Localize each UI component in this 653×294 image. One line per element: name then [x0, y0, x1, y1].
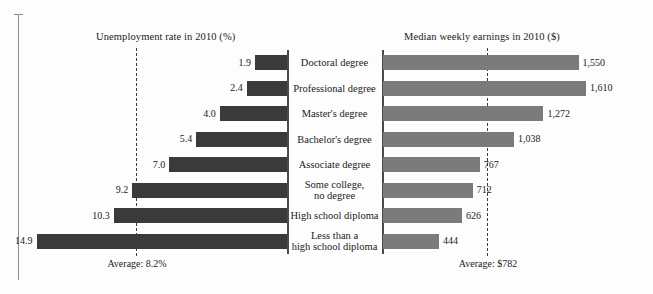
earnings-value-label: 1,272: [547, 109, 570, 119]
chart-row: 14.9Less than ahigh school diploma444: [0, 229, 653, 255]
unemployment-value-label: 2.4: [230, 83, 243, 93]
unemployment-bar: [37, 234, 288, 249]
left-bar-group: 7.0: [153, 152, 287, 178]
right-bar-group: 1,610: [383, 76, 613, 102]
category-label-text: Associate degree: [299, 159, 370, 171]
category-label-text: Professional degree: [293, 83, 376, 95]
unemployment-bar: [196, 132, 287, 147]
right-bar-group: 1,272: [383, 101, 570, 127]
right-bar-group: 626: [383, 203, 481, 229]
chart-row: 1.9Doctoral degree1,550: [0, 50, 653, 76]
chart-row: 5.4Bachelor's degree1,038: [0, 127, 653, 153]
category-label-text: High school diploma: [290, 210, 378, 222]
earnings-bar: [383, 106, 543, 121]
right-bar-group: 1,038: [383, 127, 540, 153]
category-label-text: Some college,no degree: [305, 179, 364, 202]
unemployment-bar: [255, 55, 287, 70]
earnings-bar: [383, 132, 514, 147]
earnings-bar: [383, 55, 579, 70]
left-bar-group: 10.3: [92, 203, 287, 229]
left-bar-group: 5.4: [180, 127, 287, 153]
chart-row: 9.2Some college,no degree712: [0, 178, 653, 204]
chart-figure: Unemployment rate in 2010 (%) Median wee…: [0, 0, 653, 294]
right-bar-group: 767: [383, 152, 499, 178]
left-bar-group: 1.9: [239, 50, 287, 76]
right-average-label: Average: $782: [459, 258, 517, 269]
chart-row: 7.0Associate degree767: [0, 152, 653, 178]
earnings-value-label: 1,550: [583, 58, 606, 68]
unemployment-value-label: 9.2: [116, 185, 129, 195]
chart-row: 2.4Professional degree1,610: [0, 76, 653, 102]
left-bar-group: 14.9: [15, 229, 287, 255]
category-label-text: Less than ahigh school diploma: [292, 230, 378, 253]
unemployment-value-label: 4.0: [203, 109, 216, 119]
earnings-bar: [383, 208, 462, 223]
unemployment-bar: [247, 81, 287, 96]
category-label-text: Bachelor's degree: [297, 134, 371, 146]
category-label: Less than ahigh school diploma: [289, 229, 380, 255]
unemployment-bar: [220, 106, 287, 121]
earnings-bar: [383, 234, 439, 249]
unemployment-value-label: 1.9: [239, 58, 252, 68]
left-bar-group: 9.2: [116, 178, 287, 204]
unemployment-bar: [169, 157, 287, 172]
earnings-value-label: 1,038: [518, 134, 541, 144]
category-label: High school diploma: [289, 203, 380, 229]
category-label: Professional degree: [289, 76, 380, 102]
earnings-value-label: 767: [484, 160, 499, 170]
category-label-text: Doctoral degree: [301, 57, 368, 69]
earnings-value-label: 1,610: [590, 83, 613, 93]
category-label: Bachelor's degree: [289, 127, 380, 153]
unemployment-bar: [114, 208, 287, 223]
earnings-bar: [383, 183, 473, 198]
category-label: Some college,no degree: [289, 178, 380, 204]
right-panel-title: Median weekly earnings in 2010 ($): [404, 31, 560, 42]
unemployment-value-label: 7.0: [153, 160, 166, 170]
right-bar-group: 712: [383, 178, 492, 204]
category-label: Doctoral degree: [289, 50, 380, 76]
category-label: Associate degree: [289, 152, 380, 178]
earnings-value-label: 712: [477, 185, 492, 195]
earnings-value-label: 626: [466, 211, 481, 221]
unemployment-bar: [132, 183, 287, 198]
chart-row: 4.0Master's degree1,272: [0, 101, 653, 127]
earnings-bar: [383, 157, 480, 172]
earnings-bar: [383, 81, 586, 96]
left-bar-group: 2.4: [230, 76, 287, 102]
category-label-text: Master's degree: [302, 108, 368, 120]
unemployment-value-label: 14.9: [15, 236, 33, 246]
right-bar-group: 1,550: [383, 50, 605, 76]
left-bar-group: 4.0: [203, 101, 287, 127]
earnings-value-label: 444: [443, 236, 458, 246]
unemployment-value-label: 5.4: [180, 134, 193, 144]
category-label: Master's degree: [289, 101, 380, 127]
figure-left-rule-cap: [14, 14, 23, 15]
left-average-label: Average: 8.2%: [107, 258, 166, 269]
chart-rows: 1.9Doctoral degree1,5502.4Professional d…: [0, 50, 653, 254]
right-bar-group: 444: [383, 229, 458, 255]
left-panel-title: Unemployment rate in 2010 (%): [96, 31, 235, 42]
unemployment-value-label: 10.3: [92, 211, 110, 221]
chart-row: 10.3High school diploma626: [0, 203, 653, 229]
